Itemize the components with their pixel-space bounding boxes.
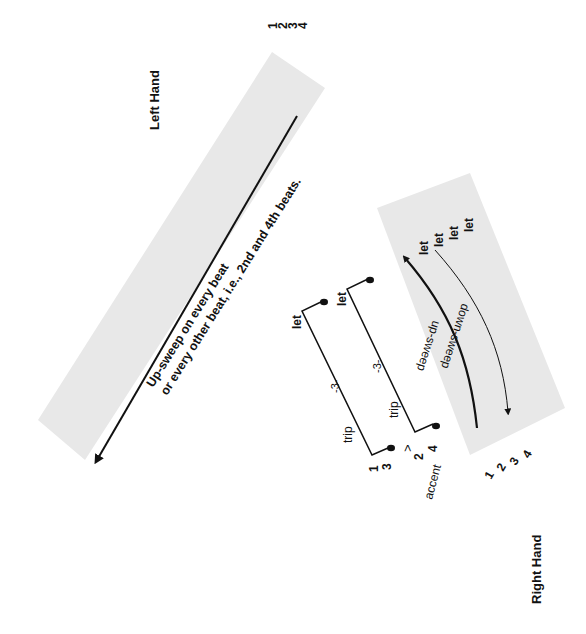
- lower-triplet-notehead-top: [366, 277, 374, 283]
- rh-beat-3: 3: [506, 454, 522, 467]
- upper-triplet-notehead-bottom: [387, 445, 395, 451]
- rh-let-3: let: [447, 226, 461, 240]
- rh-beat-2: 2: [493, 460, 509, 473]
- left-hand-beat-numbers: 1 2 3 4: [266, 22, 310, 29]
- left-hand-band: [38, 52, 325, 460]
- right-hand-label: Right Hand: [529, 535, 544, 604]
- strum-diagram: Left Hand 1 2 3 4 Up-sweep on every beat…: [0, 0, 586, 634]
- rh-let-1: let: [417, 241, 431, 255]
- lh-beat-4: 4: [296, 22, 310, 29]
- accent-mark: >: [400, 444, 415, 452]
- lower-number-4: 4: [426, 445, 440, 452]
- diagram-svg: Left Hand 1 2 3 4 Up-sweep on every beat…: [0, 0, 586, 634]
- upper-triplet-notehead-top: [320, 299, 328, 305]
- upper-number-1: 1: [367, 465, 381, 472]
- rh-beat-4: 4: [519, 447, 535, 460]
- upper-number-3: 3: [380, 463, 394, 470]
- lower-triplet-notehead-bottom: [432, 423, 440, 429]
- lower-let-label: let: [335, 292, 349, 306]
- rh-beat-1: 1: [481, 468, 497, 481]
- upper-trip-label: trip: [341, 426, 355, 443]
- lower-tuplet-label: -3-: [371, 359, 383, 373]
- rh-let-4: let: [462, 218, 476, 232]
- rh-let-2: let: [432, 233, 446, 247]
- lower-trip-label: trip: [387, 401, 401, 418]
- upper-tuplet-label: -3-: [329, 379, 341, 393]
- lower-number-2: 2: [412, 453, 426, 460]
- upper-let-label: let: [290, 315, 304, 329]
- accent-label: accent: [421, 462, 444, 500]
- left-hand-label: Left Hand: [147, 70, 162, 130]
